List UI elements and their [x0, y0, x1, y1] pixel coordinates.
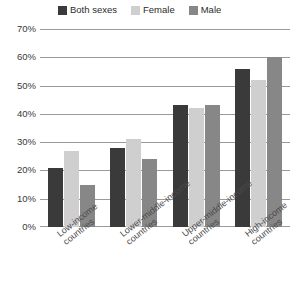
y-axis-tick-label: 40%	[2, 109, 36, 119]
chart-legend: Both sexesFemaleMale	[58, 2, 258, 18]
legend-item-both-sexes[interactable]: Both sexes	[58, 5, 117, 15]
y-axis-tick-label: 50%	[2, 81, 36, 91]
y-axis-tick-label: 20%	[2, 165, 36, 175]
legend-label: Male	[201, 5, 222, 15]
bar-group	[103, 29, 166, 227]
legend-label: Female	[143, 5, 175, 15]
y-axis-tick-label: 70%	[2, 24, 36, 34]
bar-female[interactable]	[189, 108, 204, 227]
legend-swatch-icon	[189, 6, 198, 15]
bar-female[interactable]	[251, 80, 266, 227]
bar-both-sexes[interactable]	[110, 148, 125, 227]
bar-chart: Both sexesFemaleMale 70%60%50%40%30%20%1…	[0, 0, 302, 302]
bar-both-sexes[interactable]	[48, 168, 63, 227]
y-axis-tick-label: 10%	[2, 194, 36, 204]
legend-item-female[interactable]: Female	[131, 5, 175, 15]
x-axis-labels: Low-incomecountriesLower-middle-incomeco…	[0, 228, 302, 302]
legend-swatch-icon	[58, 6, 67, 15]
bar-group	[40, 29, 103, 227]
legend-item-male[interactable]: Male	[189, 5, 222, 15]
legend-label: Both sexes	[70, 5, 117, 15]
y-axis-tick-label: 60%	[2, 52, 36, 62]
legend-swatch-icon	[131, 6, 140, 15]
y-axis-tick-label: 30%	[2, 137, 36, 147]
